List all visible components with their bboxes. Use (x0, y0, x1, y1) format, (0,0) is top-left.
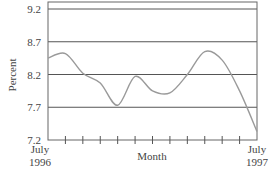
gridlines (48, 9, 257, 107)
series-line (48, 51, 257, 132)
x-start-label-year: 1996 (29, 156, 52, 168)
y-axis-label: Percent (6, 59, 18, 92)
plot-frame (48, 2, 257, 140)
line-chart: 7.27.78.28.79.2 Percent Month July 1996 … (0, 0, 271, 170)
x-end-label-year: 1997 (246, 156, 269, 168)
x-axis-label: Month (137, 150, 167, 162)
x-end-label-month: July (248, 143, 267, 155)
y-tick-label: 8.7 (27, 36, 41, 48)
y-tick-label: 7.7 (27, 101, 41, 113)
y-tick-label: 8.2 (27, 69, 41, 81)
x-start-label-month: July (31, 143, 50, 155)
y-axis-ticks: 7.27.78.28.79.2 (27, 3, 41, 146)
y-tick-label: 9.2 (27, 3, 41, 15)
